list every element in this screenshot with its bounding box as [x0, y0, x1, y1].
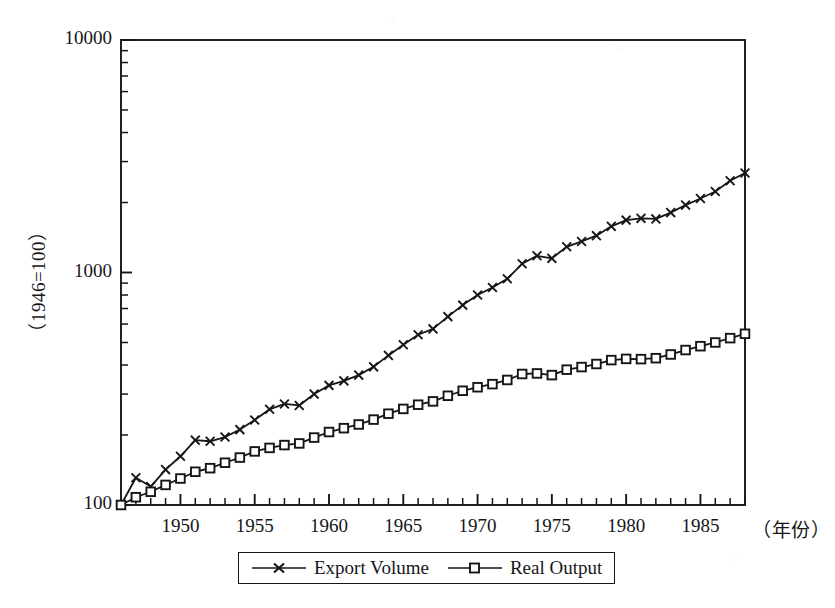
data-point-marker-square: [236, 453, 245, 462]
legend-marker-square-icon: [447, 560, 503, 576]
y-tick-label: 1000: [20, 260, 112, 282]
data-point-marker-x: [681, 201, 690, 210]
chart-figure: （1946=100） 100100010000 1950195519601965…: [0, 0, 835, 608]
data-point-marker-square: [444, 391, 453, 400]
data-point-marker-square: [280, 441, 289, 450]
data-point-marker-square: [666, 350, 675, 359]
data-point-marker-square: [577, 363, 586, 372]
data-point-marker-square: [637, 355, 646, 364]
y-axis-label: （1946=100）: [23, 182, 50, 382]
data-point-marker-x: [666, 208, 675, 217]
data-point-marker-x: [310, 390, 319, 399]
data-point-marker-x: [726, 176, 735, 185]
data-point-marker-square: [399, 405, 408, 414]
data-point-marker-x: [384, 351, 393, 360]
data-point-marker-square: [711, 338, 720, 347]
data-point-marker-square: [592, 360, 601, 369]
data-point-marker-x: [488, 283, 497, 292]
data-point-marker-square: [325, 428, 334, 437]
data-point-marker-square: [518, 370, 527, 379]
data-point-marker-square: [696, 342, 705, 351]
x-tick-label: 1970: [438, 515, 518, 537]
data-point-marker-square: [146, 487, 155, 496]
legend-entry-export-volume: Export Volume: [251, 558, 429, 579]
data-point-marker-square: [295, 439, 304, 448]
data-point-marker-square: [607, 356, 616, 365]
data-point-marker-square: [533, 369, 542, 378]
x-tick-label: 1975: [512, 515, 592, 537]
data-point-marker-x: [176, 452, 185, 461]
data-point-marker-square: [562, 365, 571, 374]
data-point-marker-square: [622, 355, 631, 364]
data-point-marker-x: [443, 312, 452, 321]
data-point-marker-square: [458, 386, 467, 395]
data-point-marker-x: [369, 362, 378, 371]
legend-label-export-volume: Export Volume: [314, 558, 429, 579]
data-point-marker-square: [652, 354, 661, 363]
data-point-marker-square: [340, 424, 349, 433]
data-point-marker-x: [265, 405, 274, 414]
data-point-marker-square: [384, 409, 393, 418]
data-point-marker-x: [235, 425, 244, 434]
data-point-marker-square: [191, 467, 200, 476]
x-tick-label: 1965: [363, 515, 443, 537]
y-axis-ticks: [121, 40, 132, 505]
data-point-marker-square: [681, 346, 690, 355]
data-point-marker-x: [399, 340, 408, 349]
data-point-marker-x: [429, 325, 438, 334]
legend-label-real-output: Real Output: [510, 558, 602, 579]
x-axis-label: （年份）: [752, 515, 830, 542]
y-tick-label: 10000: [20, 27, 112, 49]
data-point-marker-square: [473, 383, 482, 392]
data-point-marker-square: [548, 371, 557, 380]
data-point-marker-square: [310, 433, 319, 442]
data-point-marker-x: [592, 231, 601, 240]
plot-frame: [121, 40, 745, 505]
data-point-marker-square: [132, 493, 141, 502]
y-tick-label: 100: [20, 492, 112, 514]
data-point-marker-x: [473, 291, 482, 300]
x-tick-label: 1955: [215, 515, 295, 537]
legend-entry-real-output: Real Output: [447, 558, 602, 579]
data-point-marker-square: [206, 464, 215, 473]
data-point-marker-square: [221, 458, 230, 467]
data-point-marker-x: [250, 416, 259, 425]
chart-legend: Export Volume Real Output: [238, 552, 615, 584]
data-point-marker-x: [518, 259, 527, 268]
data-point-marker-square: [488, 380, 497, 389]
data-series-group: [117, 169, 750, 510]
data-point-marker-square: [741, 329, 750, 338]
data-point-marker-square: [161, 481, 170, 490]
x-tick-label: 1950: [140, 515, 220, 537]
data-point-marker-x: [577, 237, 586, 246]
data-point-marker-x: [414, 330, 423, 339]
data-point-marker-square: [369, 415, 378, 424]
data-point-marker-square: [250, 447, 259, 456]
data-point-marker-x: [161, 465, 170, 474]
data-point-marker-square: [414, 400, 423, 409]
data-point-marker-square: [503, 376, 512, 385]
data-point-marker-x: [458, 301, 467, 310]
data-point-marker-square: [176, 474, 185, 483]
data-point-marker-square: [354, 420, 363, 429]
data-point-marker-square: [265, 444, 274, 453]
data-point-marker-x: [696, 194, 705, 203]
data-point-marker-x: [562, 242, 571, 251]
data-point-marker-x: [607, 222, 616, 231]
data-point-marker-square: [726, 334, 735, 343]
x-tick-label: 1985: [660, 515, 740, 537]
data-point-marker-x: [354, 371, 363, 380]
data-point-marker-square: [429, 397, 438, 406]
legend-marker-x-icon: [251, 560, 307, 576]
data-point-marker-square: [117, 501, 126, 510]
data-point-marker-x: [503, 274, 512, 283]
x-axis-ticks: [121, 494, 745, 505]
data-point-marker-x: [711, 187, 720, 196]
x-tick-label: 1960: [289, 515, 369, 537]
x-tick-label: 1980: [586, 515, 666, 537]
data-point-marker-x: [131, 473, 140, 482]
